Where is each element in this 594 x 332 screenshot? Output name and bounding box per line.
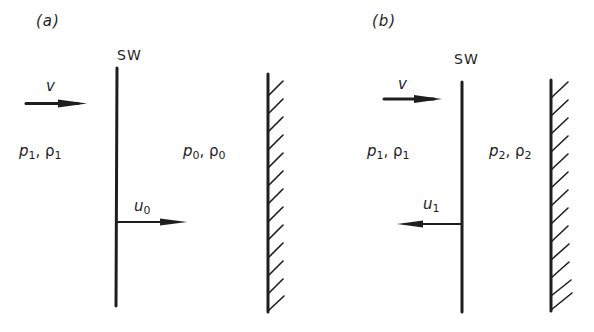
shock-wave-label-a: SW <box>117 48 142 62</box>
flow-arrow-icon-b <box>384 95 442 103</box>
density-symbol: ρ <box>45 142 55 160</box>
flow-arrow-icon-a <box>26 100 87 108</box>
shock-velocity-label-b: u1 <box>423 197 440 214</box>
velocity-symbol: u <box>423 195 433 213</box>
hatched-wall-icon-a <box>268 74 284 312</box>
pressure-symbol: p <box>19 142 29 160</box>
pressure-symbol: p <box>489 142 499 160</box>
pressure-symbol: p <box>367 142 377 160</box>
separator: , <box>200 142 210 160</box>
shock-wave-reflection-diagram <box>0 0 594 332</box>
density-subscript: 1 <box>403 149 410 162</box>
shock-velocity-label-a: u0 <box>134 199 151 216</box>
pressure-subscript: 1 <box>377 149 384 162</box>
state-label-left-b: p1, ρ1 <box>367 144 410 161</box>
shock-velocity-arrow-icon-a <box>117 219 187 226</box>
separator: , <box>36 142 46 160</box>
velocity-symbol: u <box>134 197 144 215</box>
hatched-wall-icon-b <box>551 80 572 311</box>
state-label-right-b: p2, ρ2 <box>489 144 532 161</box>
density-symbol: ρ <box>515 142 525 160</box>
panel-b <box>384 80 572 312</box>
shock-wave-line-a <box>116 68 117 306</box>
pressure-subscript: 0 <box>193 149 200 162</box>
velocity-subscript: 0 <box>144 204 151 217</box>
pressure-subscript: 1 <box>29 149 36 162</box>
velocity-subscript: 1 <box>433 202 440 215</box>
density-symbol: ρ <box>393 142 403 160</box>
pressure-symbol: p <box>183 142 193 160</box>
panel-label-b: (b) <box>372 14 396 29</box>
separator: , <box>506 142 516 160</box>
shock-wave-label-b: SW <box>454 52 479 66</box>
pressure-subscript: 2 <box>499 149 506 162</box>
state-label-left-a: p1, ρ1 <box>19 144 62 161</box>
panel-label-a: (a) <box>36 14 60 29</box>
separator: , <box>384 142 394 160</box>
density-subscript: 1 <box>55 149 62 162</box>
shock-velocity-arrow-icon-b <box>397 221 462 228</box>
state-label-right-a: p0, ρ0 <box>183 144 226 161</box>
density-symbol: ρ <box>209 142 219 160</box>
flow-velocity-label-b: v <box>398 77 407 92</box>
density-subscript: 2 <box>525 149 532 162</box>
flow-velocity-label-a: v <box>46 79 55 94</box>
density-subscript: 0 <box>219 149 226 162</box>
panel-a <box>26 68 284 312</box>
